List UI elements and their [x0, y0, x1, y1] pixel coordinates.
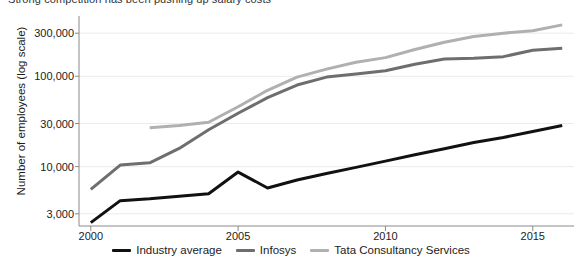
legend-item[interactable]: Tata Consultancy Services: [310, 244, 470, 256]
chart-legend: Industry averageInfosysTata Consultancy …: [0, 244, 582, 256]
series-line: [91, 126, 562, 223]
legend-swatch-icon: [112, 249, 131, 252]
legend-swatch-icon: [236, 249, 255, 252]
legend-label: Industry average: [136, 244, 222, 256]
chart-container: Strong competition has been pushing up s…: [0, 0, 582, 261]
legend-label: Infosys: [260, 244, 296, 256]
legend-label: Tata Consultancy Services: [334, 244, 470, 256]
plot-area: [0, 0, 582, 261]
legend-swatch-icon: [310, 249, 329, 252]
legend-item[interactable]: Industry average: [112, 244, 222, 256]
legend-item[interactable]: Infosys: [236, 244, 296, 256]
